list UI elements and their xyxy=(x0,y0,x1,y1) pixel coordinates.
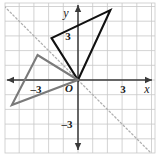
x-tick-label-3: 3 xyxy=(120,83,126,95)
origin-label: O xyxy=(65,82,73,94)
y-axis-label: y xyxy=(62,6,69,20)
x-tick-label-neg3: –3 xyxy=(29,83,42,95)
y-tick-label-3: 3 xyxy=(65,30,71,42)
x-axis-label: x xyxy=(143,82,150,96)
y-tick-label-neg3: –3 xyxy=(61,118,74,130)
coordinate-plane-figure: y x O 3 –3 3 –3 xyxy=(0,0,162,159)
coordinate-plane-svg: y x O 3 –3 3 –3 xyxy=(0,0,162,159)
